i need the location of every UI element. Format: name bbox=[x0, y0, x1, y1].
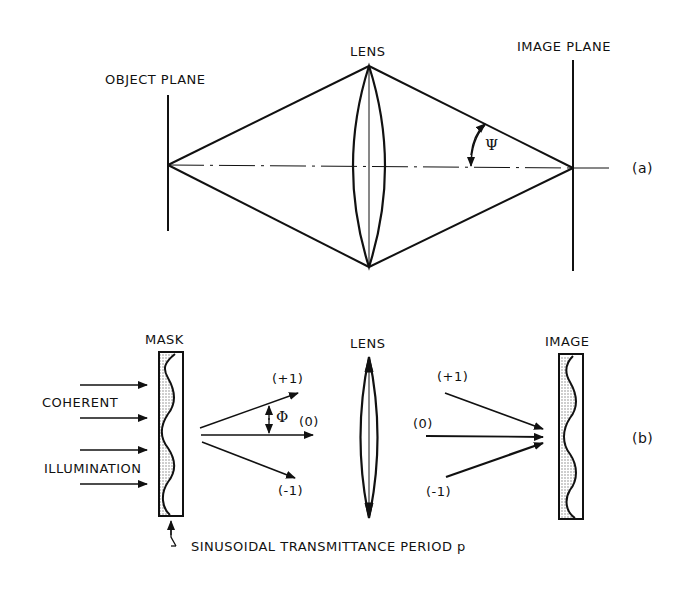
panel-a-id: (a) bbox=[632, 161, 653, 175]
optics-diagram: OBJECT PLANE LENS IMAGE PLANE Ψ (a) MASK… bbox=[0, 0, 695, 598]
ray-lower-in bbox=[168, 165, 369, 267]
illumination-label: ILLUMINATION bbox=[44, 462, 142, 475]
order-0-right-label: (0) bbox=[413, 417, 433, 430]
order-minus1-left-label: (-1) bbox=[278, 484, 303, 497]
mask-label: MASK bbox=[145, 333, 184, 346]
lens-b-tip-top bbox=[365, 357, 373, 372]
lens-b-tip-bottom bbox=[365, 503, 373, 518]
object-plane-label: OBJECT PLANE bbox=[105, 73, 206, 86]
diagram-drawing bbox=[0, 0, 695, 598]
optical-axis bbox=[168, 165, 573, 168]
psi-symbol: Ψ bbox=[485, 138, 499, 153]
panel-a bbox=[168, 60, 609, 271]
order-0-left-label: (0) bbox=[299, 415, 319, 428]
caption-label: SINUSOIDAL TRANSMITTANCE PERIOD p bbox=[191, 540, 466, 553]
panel-b bbox=[80, 352, 583, 546]
image-plane-label: IMAGE PLANE bbox=[517, 40, 611, 53]
image-label: IMAGE bbox=[545, 335, 590, 348]
ray-lower-out bbox=[369, 168, 573, 267]
lens-label-b: LENS bbox=[350, 337, 385, 350]
order-0-right bbox=[426, 436, 543, 437]
lens-label-a: LENS bbox=[350, 45, 385, 58]
order-plus1-left-label: (+1) bbox=[272, 372, 303, 385]
phi-symbol: Φ bbox=[276, 410, 289, 425]
caption-leader bbox=[171, 530, 176, 546]
order-plus1-right bbox=[445, 393, 543, 429]
order-plus1-right-label: (+1) bbox=[437, 370, 468, 383]
order-minus1-right-label: (-1) bbox=[426, 485, 451, 498]
order-minus1-right bbox=[446, 443, 543, 477]
order-minus1-left bbox=[202, 442, 295, 478]
coherent-label: COHERENT bbox=[42, 396, 118, 409]
panel-b-id: (b) bbox=[632, 431, 653, 445]
